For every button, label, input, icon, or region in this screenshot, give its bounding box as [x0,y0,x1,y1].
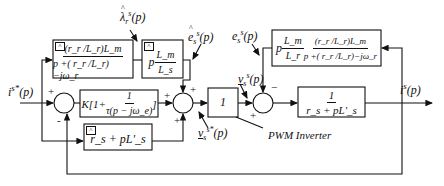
emf-estimate-label: ^ess(p) [188,28,214,48]
estimate-hat-icon: ^ [144,42,154,51]
pwm-inverter-annotation: PWM Inverter [268,129,331,141]
stator-plant-block: 1 r_s + pL'_s [298,87,365,117]
estimate-hat-icon: ^ [86,126,96,135]
sum2-bottom-sign: + [174,115,180,126]
sum2-left-sign: + [164,90,170,101]
emf-estimator-block: ^ p L_m L_s [142,40,183,78]
machine-emf-block: p L_m L_r (r_r /L_r)L_m p +( r_r /L_r)−j… [272,30,381,66]
sum3-left-sign: + [250,110,256,121]
stator-voltage-label: vss(p) [238,70,264,90]
emf-label: ess(p) [232,27,258,47]
rotor-flux-estimate-label: ^λrs(p) [120,8,145,28]
sum2-top-sign: + [190,84,196,95]
sum1-plus-sign: + [48,86,54,97]
estimate-hat-icon: ^ [55,42,65,51]
output-current-label: is(p) [400,80,421,96]
impedance-estimator-block: ^ r_s + pL'_s [84,124,152,150]
flux-estimator-block: ^ (r_r /L_r)L_m p +( r_r /L_r)−jω_r [53,40,133,78]
voltage-reference-label: vss*(p) [198,124,228,144]
pwm-inverter-block: 1 [208,88,238,117]
sum1-minus-sign: - [57,115,61,126]
sum3-top-sign: − [271,82,277,93]
pi-controller-block: K[1+ 1 τ(p − jω_e) ] [80,90,158,117]
input-current-label: is*(p) [8,82,33,98]
